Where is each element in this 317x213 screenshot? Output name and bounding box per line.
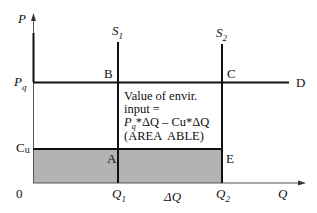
y-axis-arrow-icon — [31, 13, 36, 21]
point-b-label: B — [104, 67, 113, 80]
s2-label-sub: 2 — [223, 33, 228, 43]
annotation-pq-sub: q — [132, 122, 136, 131]
pq-label-main: P — [14, 74, 22, 89]
s1-label-sub: 1 — [119, 31, 124, 41]
demand-label: D — [296, 76, 305, 89]
point-a-label: A — [107, 152, 116, 165]
annotation-formula: *ΔQ – Cu*ΔQ — [136, 115, 210, 129]
value-annotation: Value of envir. input = Pq*ΔQ – Cu*ΔQ (A… — [124, 90, 209, 143]
shaded-cost-area — [34, 149, 222, 183]
annotation-pq: P — [124, 115, 132, 129]
s2-label-main: S — [216, 25, 223, 40]
cu-label-main: C — [16, 140, 25, 155]
annotation-line-4: (AREA ABLE) — [124, 130, 209, 143]
annotation-line-3: Pq*ΔQ – Cu*ΔQ — [124, 116, 209, 130]
point-e-label: E — [226, 152, 234, 165]
q2-label-sub: 2 — [225, 194, 230, 204]
y-axis-label: P — [18, 12, 26, 25]
point-c-label: C — [227, 67, 236, 80]
q2-label-main: Q — [216, 186, 225, 201]
pq-label-sub: q — [22, 82, 27, 92]
origin-label: 0 — [16, 187, 23, 200]
q1-label-main: Q — [112, 186, 121, 201]
s2-label: S2 — [216, 26, 227, 39]
s1-label: S1 — [112, 24, 123, 37]
pq-label: Pq — [14, 75, 26, 88]
x-axis-arrow-icon — [298, 181, 306, 186]
q1-label-sub: 1 — [121, 194, 126, 204]
q2-label: Q2 — [216, 187, 230, 200]
s1-label-main: S — [112, 23, 119, 38]
delta-q-label: ΔQ — [164, 190, 181, 203]
cu-label-sub: u — [25, 144, 30, 155]
x-axis-label: Q — [278, 187, 287, 200]
q1-label: Q1 — [112, 187, 126, 200]
cu-label: Cu — [16, 141, 30, 154]
